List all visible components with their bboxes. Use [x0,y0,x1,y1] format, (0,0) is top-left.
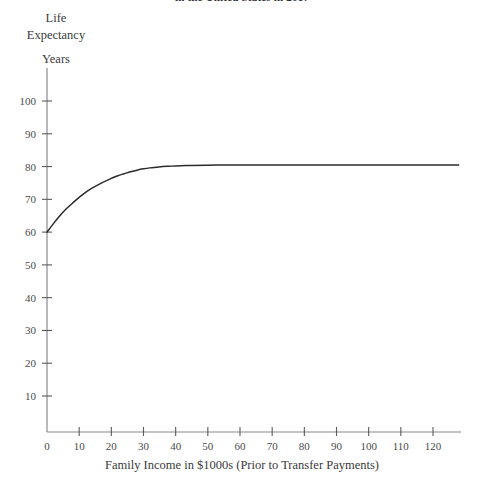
y-axis-tick-label: 20 [0,357,36,369]
x-axis-tick-label: 80 [299,440,310,452]
x-axis-tick-label: 100 [360,440,377,452]
x-axis-tick-label: 10 [74,440,85,452]
axes [47,68,461,432]
y-axis-tick-label: 80 [0,161,36,173]
life-expectancy-curve [47,165,459,232]
x-axis-tick-label: 30 [138,440,149,452]
x-axis-tick-label: 50 [202,440,213,452]
x-axis-tick-label: 90 [331,440,342,452]
y-axis-tick-label: 30 [0,324,36,336]
chart-page: in the United States in 2017 Life Expect… [0,0,484,484]
y-axis-tick-label: 90 [0,128,36,140]
x-axis-caption: Family Income in $1000s (Prior to Transf… [0,458,484,473]
y-axis-tick-label: 10 [0,390,36,402]
x-axis-tick-label: 0 [44,440,50,452]
y-axis-tick-label: 40 [0,292,36,304]
x-axis-tick-label: 120 [425,440,442,452]
y-axis-tick-label: 100 [0,95,36,107]
y-axis-tick-label: 70 [0,193,36,205]
x-axis-tick-label: 70 [267,440,278,452]
x-axis-tick-label: 60 [235,440,246,452]
x-axis-tick-label: 20 [106,440,117,452]
y-axis-tick-label: 50 [0,259,36,271]
x-axis-tick-label: 40 [170,440,181,452]
y-axis-tick-label: 60 [0,226,36,238]
plot-area [0,0,484,484]
x-axis-tick-label: 110 [393,440,409,452]
